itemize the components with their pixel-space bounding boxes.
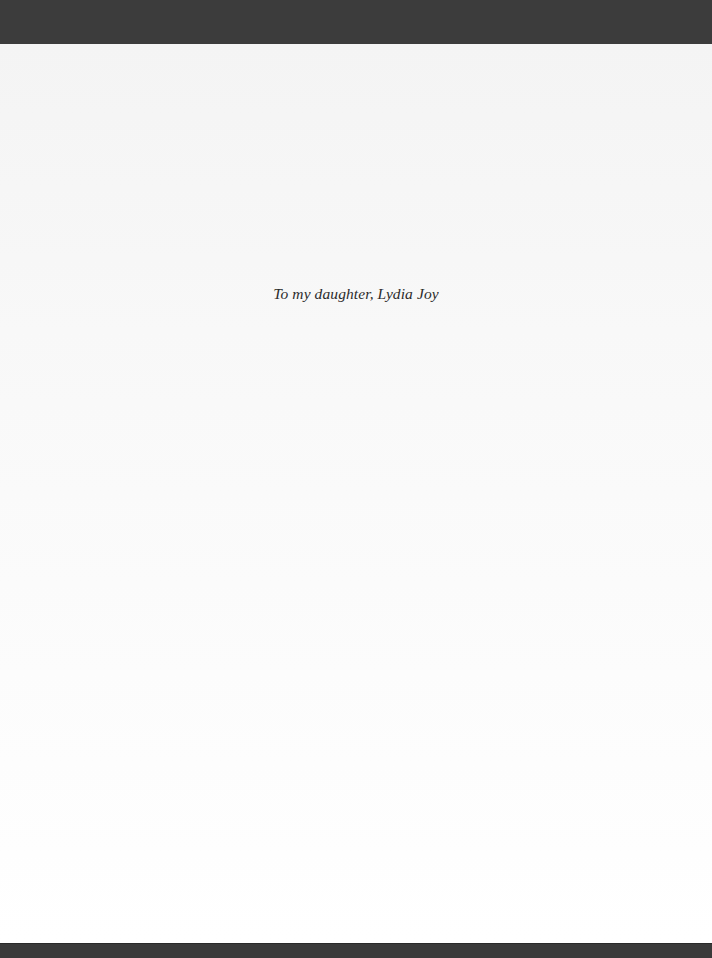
dedication-text: To my daughter, Lydia Joy bbox=[0, 285, 712, 303]
document-page bbox=[0, 44, 712, 943]
bottom-frame-bar bbox=[0, 943, 712, 958]
top-frame-bar bbox=[0, 0, 712, 44]
